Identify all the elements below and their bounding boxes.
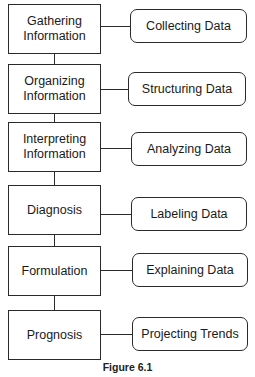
activity-explaining-data: Explaining Data [132, 253, 248, 287]
step-label: Prognosis [27, 328, 83, 343]
step-label-line1: Gathering [23, 14, 86, 29]
activity-label: Projecting Trends [141, 327, 238, 342]
link-3 [101, 148, 131, 149]
step-prognosis: Prognosis [8, 310, 101, 360]
step-diagnosis: Diagnosis [8, 185, 101, 235]
connector-5-6 [54, 296, 55, 310]
step-label-line2: Information [23, 147, 86, 162]
step-organizing-information: Organizing Information [8, 64, 101, 114]
activity-label: Collecting Data [146, 19, 231, 34]
activity-structuring-data: Structuring Data [128, 72, 246, 106]
connector-4-5 [54, 235, 55, 246]
connector-3-4 [54, 172, 55, 185]
link-5 [101, 270, 132, 271]
activity-collecting-data: Collecting Data [130, 9, 247, 43]
step-label-line1: Interpreting [23, 132, 86, 147]
step-label-line2: Information [23, 29, 86, 44]
step-gathering-information: Gathering Information [8, 4, 101, 54]
step-interpreting-information: Interpreting Information [8, 122, 101, 172]
link-4 [101, 214, 131, 215]
step-label-line1: Organizing [23, 74, 86, 89]
step-label: Diagnosis [27, 203, 82, 218]
link-1 [101, 26, 130, 27]
step-label: Formulation [22, 264, 88, 279]
connector-2-3 [54, 114, 55, 122]
link-6 [101, 334, 132, 335]
activity-label: Labeling Data [150, 207, 227, 222]
activity-projecting-trends: Projecting Trends [132, 317, 248, 351]
link-2 [101, 89, 128, 90]
activity-label: Structuring Data [142, 82, 232, 97]
connector-1-2 [54, 54, 55, 64]
figure-caption: Figure 6.1 [0, 361, 255, 373]
activity-labeling-data: Labeling Data [131, 197, 247, 231]
activity-label: Explaining Data [146, 263, 234, 278]
step-formulation: Formulation [8, 246, 101, 296]
activity-label: Analyzing Data [147, 142, 231, 157]
step-label-line2: Information [23, 89, 86, 104]
activity-analyzing-data: Analyzing Data [131, 132, 247, 166]
